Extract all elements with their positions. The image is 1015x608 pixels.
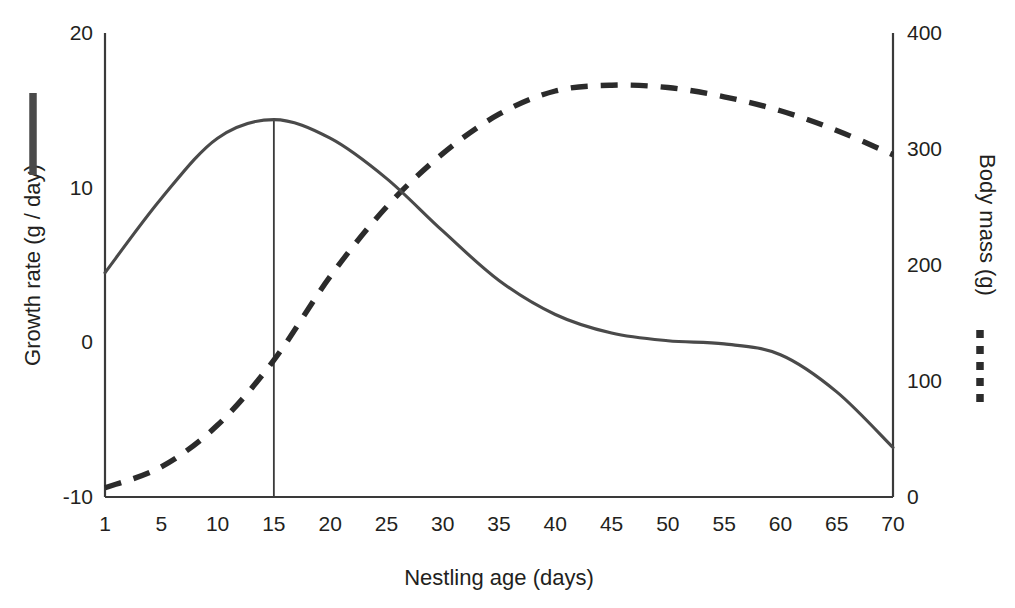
x-axis-tick-label: 55	[712, 512, 735, 535]
x-axis-tick-label: 5	[155, 512, 167, 535]
x-axis-tick-label: 40	[544, 512, 567, 535]
x-axis-tick-label: 1	[99, 512, 111, 535]
right-axis-tick-label: 200	[907, 253, 942, 276]
right-axis-tick-labels: 0100200300400	[907, 21, 942, 508]
right-axis-tick-label: 300	[907, 137, 942, 160]
right-axis-tick-label: 100	[907, 369, 942, 392]
x-axis-tick-label: 25	[375, 512, 398, 535]
x-axis-title: Nestling age (days)	[404, 565, 594, 590]
x-axis-tick-labels: 1510152025303540455055606570	[99, 512, 905, 535]
chart-figure: -1001020 0100200300400 15101520253035404…	[0, 0, 1015, 608]
x-axis-tick-label: 35	[487, 512, 510, 535]
x-axis-tick-label: 60	[769, 512, 792, 535]
x-axis-tick-label: 65	[825, 512, 848, 535]
left-axis-title: Growth rate (g / day)	[20, 164, 45, 366]
chart-canvas: -1001020 0100200300400 15101520253035404…	[0, 0, 1015, 608]
x-axis-tick-label: 10	[206, 512, 229, 535]
body-mass-series-line	[105, 85, 893, 488]
x-axis-tick-label: 70	[881, 512, 904, 535]
left-axis-tick-label: 0	[81, 330, 93, 353]
growth-rate-series-line	[105, 120, 893, 448]
x-axis-tick-label: 50	[656, 512, 679, 535]
right-axis-tick-label: 0	[907, 485, 919, 508]
left-axis-tick-label: 10	[70, 176, 93, 199]
left-axis-tick-label: 20	[70, 21, 93, 44]
x-axis-tick-label: 15	[262, 512, 285, 535]
x-axis-tick-label: 30	[431, 512, 454, 535]
x-axis-tick-label: 20	[318, 512, 341, 535]
right-axis-title: Body mass (g)	[975, 154, 1000, 296]
right-axis-tick-label: 400	[907, 21, 942, 44]
x-axis-tick-label: 45	[600, 512, 623, 535]
left-axis-tick-label: -10	[63, 485, 93, 508]
left-axis-tick-labels: -1001020	[63, 21, 93, 508]
